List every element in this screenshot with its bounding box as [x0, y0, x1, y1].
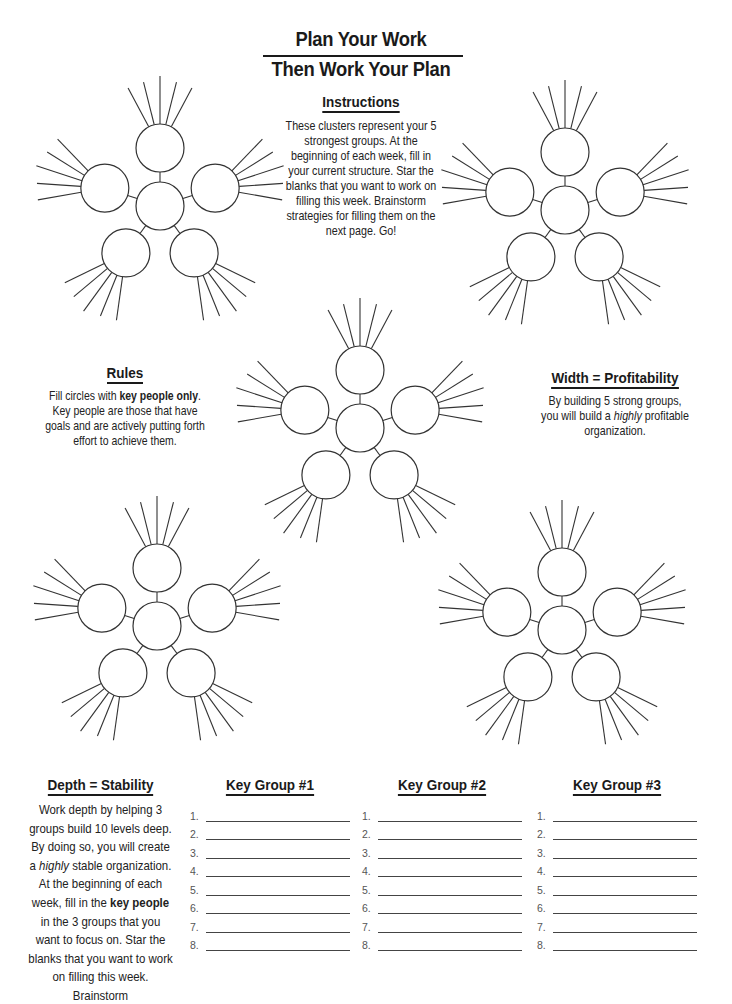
- satellite-circle[interactable]: [593, 588, 641, 636]
- blank-line[interactable]: 6.: [190, 896, 350, 915]
- satellite-circle[interactable]: [572, 653, 620, 701]
- hub-circle[interactable]: [336, 404, 384, 452]
- line-number: 3.: [190, 847, 204, 859]
- depth-heading: Depth = Stability: [26, 776, 175, 793]
- blank-line[interactable]: 7.: [537, 914, 697, 933]
- blank-line[interactable]: 5.: [537, 877, 697, 896]
- fill-in-blank[interactable]: [206, 864, 350, 877]
- fill-in-blank[interactable]: [553, 883, 697, 896]
- fill-in-blank[interactable]: [206, 883, 350, 896]
- fill-in-blank[interactable]: [206, 809, 350, 822]
- line-number: 3.: [537, 847, 551, 859]
- satellite-circle[interactable]: [486, 168, 534, 216]
- satellite-circle[interactable]: [302, 451, 350, 499]
- blank-line[interactable]: 6.: [362, 896, 522, 915]
- fill-in-blank[interactable]: [378, 809, 522, 822]
- width-section: Width = Profitability By building 5 stro…: [515, 369, 715, 439]
- fill-in-blank[interactable]: [553, 809, 697, 822]
- satellite-circle[interactable]: [541, 128, 589, 176]
- blank-line[interactable]: 6.: [537, 896, 697, 915]
- satellite-circle[interactable]: [507, 233, 555, 281]
- satellite-circle[interactable]: [538, 548, 586, 596]
- satellite-circle[interactable]: [483, 588, 531, 636]
- key-group-2-heading: Key Group #2: [370, 776, 514, 793]
- instructions-heading: Instructions: [281, 93, 441, 110]
- blank-line[interactable]: 7.: [190, 914, 350, 933]
- satellite-circle[interactable]: [370, 451, 418, 499]
- line-number: 6.: [537, 902, 551, 914]
- fill-in-blank[interactable]: [378, 938, 522, 951]
- satellite-circle[interactable]: [596, 168, 644, 216]
- fill-in-blank[interactable]: [378, 846, 522, 859]
- fill-in-blank[interactable]: [378, 883, 522, 896]
- page-title-line1: Plan Your Work: [266, 28, 456, 51]
- key-group-1-heading: Key Group #1: [198, 776, 342, 793]
- satellite-circle[interactable]: [99, 649, 147, 697]
- satellite-circle[interactable]: [136, 124, 184, 172]
- line-number: 5.: [362, 884, 376, 896]
- depth-section: Depth = Stability Work depth by helping …: [18, 776, 183, 1004]
- fill-in-blank[interactable]: [206, 846, 350, 859]
- satellite-circle[interactable]: [575, 233, 623, 281]
- fill-in-blank[interactable]: [553, 901, 697, 914]
- blank-line[interactable]: 4.: [190, 859, 350, 878]
- satellite-circle[interactable]: [170, 229, 218, 277]
- blank-line[interactable]: 2.: [362, 822, 522, 841]
- fill-in-blank[interactable]: [553, 864, 697, 877]
- fill-in-blank[interactable]: [206, 920, 350, 933]
- blank-line[interactable]: 5.: [362, 877, 522, 896]
- fill-in-blank[interactable]: [206, 901, 350, 914]
- satellite-circle[interactable]: [133, 544, 181, 592]
- fill-in-blank[interactable]: [553, 920, 697, 933]
- hub-circle[interactable]: [541, 186, 589, 234]
- fill-in-blank[interactable]: [378, 827, 522, 840]
- line-number: 2.: [190, 828, 204, 840]
- key-group-2: Key Group #2 1.2.3.4.5.6.7.8.: [362, 776, 522, 951]
- satellite-circle[interactable]: [102, 229, 150, 277]
- blank-line[interactable]: 4.: [362, 859, 522, 878]
- hub-circle[interactable]: [133, 602, 181, 650]
- satellite-circle[interactable]: [188, 584, 236, 632]
- fill-in-blank[interactable]: [206, 938, 350, 951]
- fill-in-blank[interactable]: [378, 920, 522, 933]
- line-number: 8.: [190, 939, 204, 951]
- blank-line[interactable]: 1.: [362, 803, 522, 822]
- satellite-circle[interactable]: [281, 386, 329, 434]
- rules-heading: Rules: [35, 364, 215, 381]
- hub-circle[interactable]: [538, 606, 586, 654]
- blank-line[interactable]: 1.: [190, 803, 350, 822]
- hub-circle[interactable]: [136, 182, 184, 230]
- blank-line[interactable]: 1.: [537, 803, 697, 822]
- fill-in-blank[interactable]: [378, 864, 522, 877]
- satellite-circle[interactable]: [391, 386, 439, 434]
- fill-in-blank[interactable]: [553, 827, 697, 840]
- line-number: 1.: [362, 810, 376, 822]
- satellite-circle[interactable]: [81, 164, 129, 212]
- line-number: 4.: [190, 865, 204, 877]
- fill-in-blank[interactable]: [553, 846, 697, 859]
- fill-in-blank[interactable]: [206, 827, 350, 840]
- satellite-circle[interactable]: [78, 584, 126, 632]
- blank-line[interactable]: 8.: [190, 933, 350, 952]
- blank-line[interactable]: 2.: [190, 822, 350, 841]
- blank-line[interactable]: 3.: [190, 840, 350, 859]
- line-number: 7.: [362, 921, 376, 933]
- satellite-circle[interactable]: [167, 649, 215, 697]
- blank-line[interactable]: 3.: [362, 840, 522, 859]
- rules-text: Fill circles with key people only. Key p…: [39, 389, 211, 449]
- blank-line[interactable]: 8.: [537, 933, 697, 952]
- satellite-circle[interactable]: [191, 164, 239, 212]
- blank-line[interactable]: 5.: [190, 877, 350, 896]
- line-number: 2.: [537, 828, 551, 840]
- blank-line[interactable]: 7.: [362, 914, 522, 933]
- blank-line[interactable]: 8.: [362, 933, 522, 952]
- satellite-circle[interactable]: [504, 653, 552, 701]
- blank-line[interactable]: 3.: [537, 840, 697, 859]
- blank-line[interactable]: 4.: [537, 859, 697, 878]
- blank-line[interactable]: 2.: [537, 822, 697, 841]
- fill-in-blank[interactable]: [378, 901, 522, 914]
- line-number: 7.: [537, 921, 551, 933]
- fill-in-blank[interactable]: [553, 938, 697, 951]
- line-number: 4.: [362, 865, 376, 877]
- satellite-circle[interactable]: [336, 346, 384, 394]
